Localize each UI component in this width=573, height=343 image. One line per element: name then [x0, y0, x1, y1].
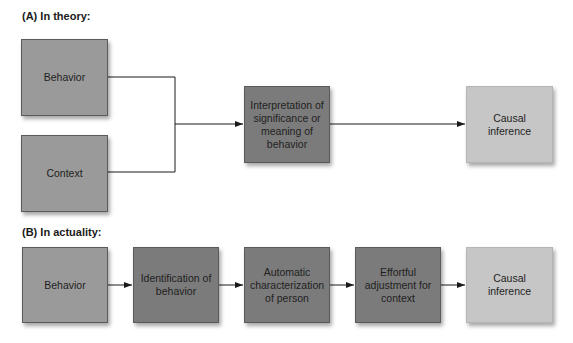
theory-behavior-box: Behavior: [21, 39, 108, 116]
theory-interpretation-text: Interpretation of significance or meanin…: [249, 99, 325, 151]
actual-effortful-adjustment-box: Effortful adjustment for context: [355, 247, 441, 323]
theory-context-text: Context: [46, 167, 82, 180]
theory-causal-inference-text: Causal inference: [485, 112, 535, 138]
actual-automatic-characterization-text: Automatic characterization of person: [249, 266, 325, 305]
panel-a-label: (A) In theory:: [22, 10, 90, 22]
actual-automatic-characterization-box: Automatic characterization of person: [244, 247, 330, 323]
actual-causal-inference-box: Causal inference: [466, 247, 553, 323]
actual-identification-text: Identification of behavior: [138, 272, 214, 298]
theory-behavior-text: Behavior: [44, 71, 85, 84]
actual-identification-box: Identification of behavior: [133, 247, 219, 323]
actual-behavior-text: Behavior: [44, 279, 85, 292]
actual-causal-inference-text: Causal inference: [485, 272, 535, 298]
panel-b-label: (B) In actuality:: [22, 226, 101, 238]
actual-behavior-box: Behavior: [22, 247, 108, 323]
theory-context-box: Context: [21, 135, 108, 212]
actual-effortful-adjustment-text: Effortful adjustment for context: [360, 266, 436, 305]
theory-interpretation-box: Interpretation of significance or meanin…: [244, 86, 330, 163]
theory-causal-inference-box: Causal inference: [466, 86, 553, 163]
